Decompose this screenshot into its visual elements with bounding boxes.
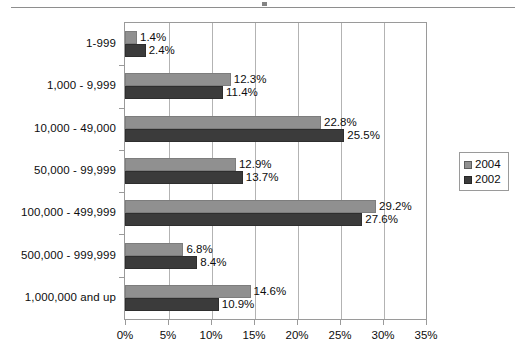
legend-item-2004[interactable]: 2004: [464, 157, 505, 172]
y-axis-tick: [119, 65, 124, 66]
x-axis-tick: [211, 320, 212, 325]
bar-value-label: 12.3%: [234, 73, 267, 86]
bar-2002: [125, 213, 362, 226]
legend-label: 2004: [475, 159, 501, 170]
y-axis-tick: [119, 150, 124, 151]
x-axis-tick-label: 0%: [117, 329, 134, 341]
y-axis-tick: [119, 277, 124, 278]
bar-2002: [125, 298, 219, 311]
y-axis-tick: [119, 108, 124, 109]
bar-2004: [125, 73, 231, 86]
legend-item-2002[interactable]: 2002: [464, 172, 505, 187]
bar-2004: [125, 116, 321, 129]
x-axis-tick-label: 10%: [199, 329, 222, 341]
x-axis-tick-label: 35%: [414, 329, 437, 341]
x-axis-tick: [426, 320, 427, 325]
x-axis-tick: [297, 320, 298, 325]
bar-2004: [125, 158, 236, 171]
horizontal-bar-chart: 0%5%10%15%20%25%30%35%1-9991.4%2.4%1,000…: [0, 0, 521, 359]
category-label: 100,000 - 499,999: [0, 206, 116, 218]
x-axis-tick: [383, 320, 384, 325]
bar-value-label: 1.4%: [140, 31, 166, 44]
bar-2004: [125, 243, 183, 256]
category-label: 50,000 - 99,999: [0, 164, 116, 176]
bar-value-label: 11.4%: [226, 86, 258, 99]
bar-value-label: 8.4%: [200, 256, 226, 269]
bar-value-label: 27.6%: [365, 213, 398, 226]
y-axis-tick: [119, 234, 124, 235]
category-label: 500,000 - 999,999: [0, 249, 116, 261]
category-label: 1,000,000 and up: [0, 291, 116, 303]
legend-swatch-icon: [464, 176, 472, 184]
x-axis-tick-label: 5%: [160, 329, 177, 341]
gridline: [384, 23, 385, 319]
bar-2002: [125, 86, 223, 99]
category-label: 1-999: [0, 37, 116, 49]
bar-value-label: 22.8%: [324, 116, 357, 129]
legend-swatch-icon: [464, 161, 472, 169]
y-axis-tick: [119, 192, 124, 193]
gridline: [341, 23, 342, 319]
bar-value-label: 13.7%: [246, 171, 279, 184]
category-label: 10,000 - 49,000: [0, 122, 116, 134]
chart-legend: 20042002: [459, 152, 509, 191]
x-axis-tick: [340, 320, 341, 325]
bar-value-label: 6.8%: [186, 243, 212, 256]
legend-label: 2002: [475, 174, 501, 185]
bar-value-label: 14.6%: [254, 285, 287, 298]
bar-2004: [125, 31, 137, 44]
bar-2002: [125, 129, 344, 142]
bar-value-label: 29.2%: [379, 200, 412, 213]
bar-value-label: 12.9%: [239, 158, 272, 171]
x-axis-tick: [168, 320, 169, 325]
bar-2004: [125, 200, 376, 213]
x-axis-tick: [125, 320, 126, 325]
x-axis-tick: [254, 320, 255, 325]
bar-2002: [125, 256, 197, 269]
bar-2002: [125, 44, 146, 57]
x-axis-tick-label: 20%: [285, 329, 308, 341]
gridline: [298, 23, 299, 319]
x-axis-tick-label: 15%: [242, 329, 265, 341]
category-label: 1,000 - 9,999: [0, 79, 116, 91]
bar-value-label: 25.5%: [347, 129, 380, 142]
x-axis-tick-label: 25%: [328, 329, 351, 341]
bar-value-label: 10.9%: [222, 298, 255, 311]
bar-2002: [125, 171, 243, 184]
x-axis-tick-label: 30%: [371, 329, 394, 341]
bar-2004: [125, 285, 251, 298]
bar-value-label: 2.4%: [149, 44, 175, 57]
